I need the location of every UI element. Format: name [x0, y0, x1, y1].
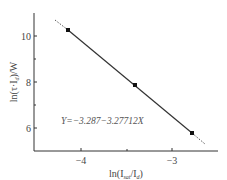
x-tick-label-neg4: −4 [76, 155, 87, 166]
data-point-2 [133, 83, 137, 87]
y-axis-label: ln(τ·Id)/W [8, 61, 20, 102]
data-point-3 [190, 131, 194, 135]
data-point-1 [66, 28, 70, 32]
y-tick-label-10: 10 [21, 31, 31, 42]
fit-equation: Y=−3.287−3.27712X [61, 116, 145, 126]
x-tick-label-neg3: −3 [167, 155, 178, 166]
y-tick-label-6: 6 [26, 123, 31, 134]
x-axis-label: ln(Isat/Id) [109, 168, 143, 180]
chart: 10 8 6 −4 −3 ln(Isat/Id) ln(τ·Id)/W Y=−3… [0, 0, 227, 180]
y-tick-label-8: 8 [26, 77, 31, 88]
